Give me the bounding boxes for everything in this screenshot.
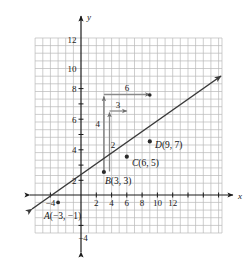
x-tick-label-2: 2	[94, 198, 99, 208]
x-tick-label-6: 6	[125, 198, 130, 208]
y-tick-label--4: −4	[78, 233, 88, 243]
segment-label-4: 4	[96, 119, 101, 129]
x-tick-label-4: 4	[109, 198, 114, 208]
y-tick-label-2: 2	[72, 176, 77, 186]
x-tick-label-8: 8	[140, 198, 145, 208]
point-label-B-coords: (3, 3)	[111, 176, 132, 187]
y-tick-label-6: 6	[72, 115, 77, 125]
x-tick-label-12: 12	[168, 198, 177, 208]
point-label-A: A(−3, −1)	[43, 211, 81, 222]
point-label-D-name: D	[154, 140, 162, 150]
y-tick-label-10: 10	[68, 64, 78, 74]
point-B	[102, 170, 106, 174]
segment-label-3: 3	[116, 100, 121, 110]
point-C	[125, 155, 129, 159]
segment-label-2: 2	[111, 140, 116, 150]
x-tick-label-10: 10	[153, 198, 163, 208]
point-label-D-coords: (9, 7)	[162, 140, 183, 151]
point-label-A-coords: (−3, −1)	[50, 211, 81, 222]
graph-figure: −4 2 4 6 8 10 12 12 10 8 6 4 2 −4 x y 6 …	[0, 0, 251, 263]
point-D	[148, 139, 152, 143]
segment-label-6: 6	[125, 83, 130, 93]
y-tick-label-4: 4	[72, 145, 77, 155]
x-tick-label--4: −4	[46, 198, 56, 208]
point-label-C: C(6, 5)	[132, 158, 159, 169]
point-label-D: D(9, 7)	[154, 140, 182, 151]
y-tick-label-8: 8	[72, 84, 77, 94]
coordinate-plane-svg: −4 2 4 6 8 10 12 12 10 8 6 4 2 −4 x y 6 …	[0, 0, 251, 263]
figure-background	[0, 0, 251, 263]
y-tick-label-12: 12	[68, 35, 77, 45]
x-axis-label: x	[237, 191, 242, 201]
y-axis-label: y	[86, 12, 91, 22]
vertex-top-right	[148, 93, 152, 97]
triangle-vertices	[148, 93, 152, 97]
point-A	[56, 201, 60, 205]
point-label-C-coords: (6, 5)	[138, 158, 159, 169]
point-label-B: B(3, 3)	[105, 176, 131, 187]
